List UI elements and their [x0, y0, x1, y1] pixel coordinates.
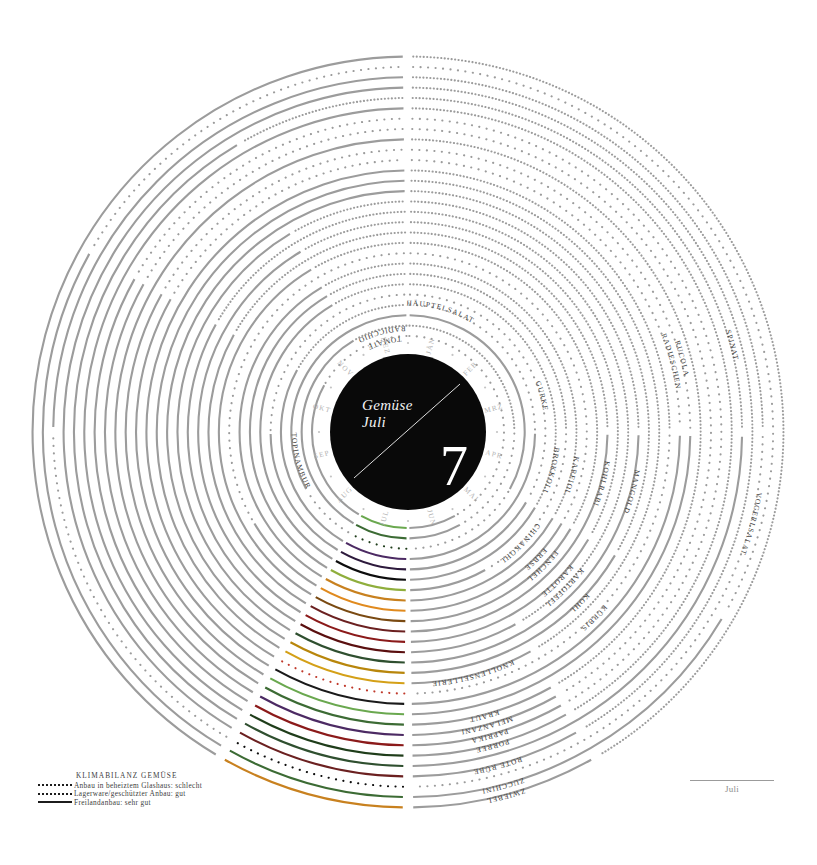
month-tick: [318, 431, 320, 433]
month-label-aug: AUG: [335, 485, 354, 504]
hub-title: Gemüse: [362, 397, 413, 413]
arc-segment: [260, 305, 332, 559]
arc-segment: [290, 642, 404, 673]
arc-segment: [148, 129, 404, 277]
month-label-okt: OKT: [312, 402, 332, 415]
footer-label: Juli: [690, 784, 774, 794]
month-tick: [330, 386, 332, 388]
month-label-sep: SEP: [313, 449, 331, 461]
month-label-apr: APR: [484, 449, 503, 461]
arc-segment: [296, 633, 405, 662]
month-tick: [496, 431, 498, 433]
month-tick: [484, 386, 486, 388]
arc-segment: [316, 243, 406, 267]
month-label-nov: NOV: [336, 359, 355, 378]
month-label-jun: JUN: [425, 509, 437, 528]
ring-label-karfiol: KARFIOL: [562, 456, 581, 497]
month-label-jän: JÄN: [424, 336, 437, 355]
legend-item-greenhouse: Anbau in beheiztem Glashaus: schlecht: [38, 781, 288, 790]
footer-rule: [690, 780, 774, 781]
month-tick: [451, 508, 453, 510]
month-tick: [362, 508, 364, 510]
legend-label-field: Freilandanbau: sehr gut: [74, 798, 151, 807]
hub-month-number: 7: [440, 435, 468, 497]
arc-segment: [411, 624, 515, 652]
arc-segment: [280, 660, 404, 693]
arc-segment: [285, 651, 404, 683]
arc-segment: [281, 370, 343, 541]
ring-label-brokkoli: BROKKOLI: [541, 447, 562, 495]
month-tick: [451, 354, 453, 356]
footer-month-marker: Juli: [690, 780, 790, 794]
center-hub: GemüseJuli7: [330, 354, 486, 510]
arc-segment: [351, 534, 406, 549]
month-label-mrz: MRZ: [483, 402, 504, 415]
legend-key-dense-dotted: [38, 790, 74, 798]
ring-label-kürbis: KÜRBIS: [579, 603, 609, 633]
radial-seasonal-calendar: TOMATERADICCHIOTOPINAMBURHÄUPTELSALATGUR…: [0, 0, 817, 865]
legend-item-storage: Lagerware/geschützter Anbau: gut: [38, 790, 288, 799]
arc-segment: [306, 615, 405, 642]
month-tick: [362, 354, 364, 356]
arc-segment: [250, 296, 327, 568]
ring-label-spinat: SPINAT: [724, 329, 741, 362]
arc-segment: [413, 67, 773, 610]
arc-segment: [219, 212, 405, 319]
month-tick: [407, 342, 409, 344]
month-label-jul: JUL: [379, 509, 391, 527]
month-tick: [330, 475, 332, 477]
legend: KLIMABILANZ GEMÜSE Anbau in beheiztem Gl…: [38, 771, 288, 807]
arc-segment: [306, 222, 405, 249]
legend-title: KLIMABILANZ GEMÜSE: [76, 771, 288, 780]
legend-item-field: Freilandanbau: sehr gut: [38, 798, 288, 807]
legend-key-solid: [38, 798, 74, 806]
arc-segment: [296, 201, 405, 230]
ring-label-mangold: MANGOLD: [621, 469, 641, 515]
month-label-feb: FEB: [462, 360, 480, 378]
ring-label-vogerlsalat: VOGERLSALAT: [739, 492, 764, 557]
hub-subtitle: Juli: [362, 414, 386, 430]
arc-segment: [177, 234, 289, 630]
infographic-canvas: TOMATERADICCHIOTOPINAMBURHÄUPTELSALATGUR…: [0, 0, 817, 865]
legend-key-sparse-dotted: [38, 781, 74, 789]
month-tick: [407, 520, 409, 522]
arc-segment: [174, 160, 404, 293]
ring-label-knollensellerie: KNOLLENSELLERIE: [431, 658, 516, 689]
arc-segment: [188, 325, 295, 622]
arc-segment: [301, 624, 405, 652]
month-tick: [484, 475, 486, 477]
